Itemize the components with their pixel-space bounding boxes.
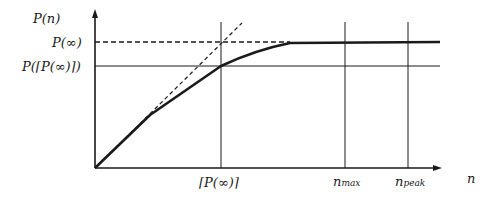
y-axis-label: P(n) <box>33 12 60 25</box>
n-peak-sub: peak <box>403 178 425 188</box>
y-axis-arrow-icon <box>92 9 98 18</box>
diagram-canvas <box>0 0 496 198</box>
x-tick-ceil-p-infinity: ⌈P(∞)⌉ <box>199 176 239 189</box>
y-tick-p-infinity: P(∞) <box>52 36 82 49</box>
n-max-sub: max <box>341 178 360 188</box>
x-tick-n-peak: npeak <box>395 175 425 188</box>
x-tick-n-max: nmax <box>333 175 360 188</box>
x-axis-arrow-icon <box>433 165 442 171</box>
x-axis-label: n <box>467 172 475 185</box>
y-tick-p-ceil: P(⌈P(∞)⌉) <box>22 60 81 73</box>
p-n-curve <box>95 42 440 168</box>
